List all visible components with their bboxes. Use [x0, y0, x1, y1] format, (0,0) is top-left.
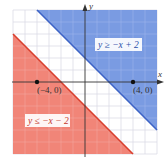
- blue-region-label: y ≥ −x + 2: [97, 40, 139, 50]
- point-right: [131, 80, 135, 84]
- y-axis-arrow-icon: [83, 4, 88, 11]
- red-region-label: y ≤ −x − 2: [27, 116, 69, 126]
- x-axis-arrow-icon: [157, 80, 164, 85]
- y-axis-label: y: [88, 1, 93, 11]
- x-axis-label: x: [157, 69, 162, 79]
- point-left: [35, 80, 39, 84]
- point-left-label: (−4, 0): [37, 85, 62, 95]
- inequality-graph: x y (−4, 0) (4, 0) y ≥ −x + 2 y ≤ −x − 2: [0, 0, 166, 164]
- point-right-label: (4, 0): [133, 85, 153, 95]
